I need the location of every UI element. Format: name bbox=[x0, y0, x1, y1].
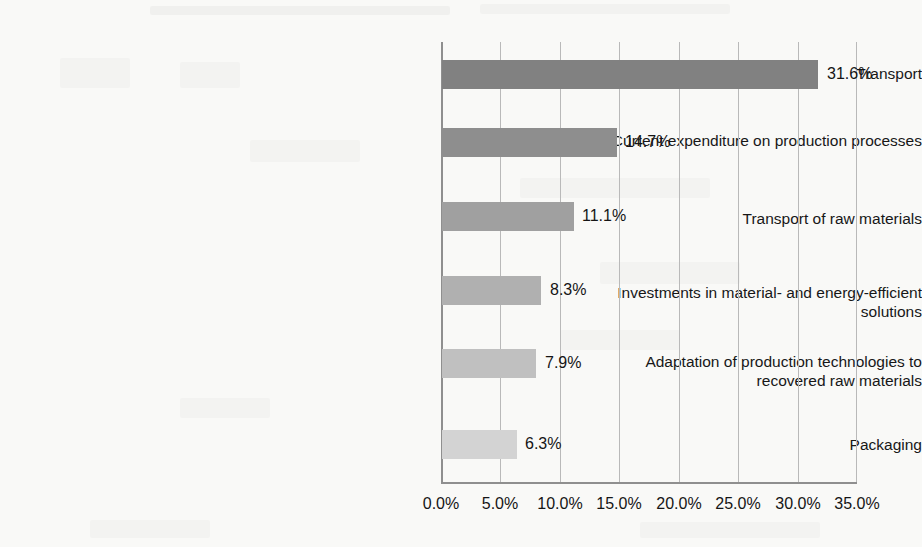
scan-artifact bbox=[480, 4, 730, 14]
value-label-transport-raw-materials: 11.1% bbox=[582, 207, 626, 225]
scan-artifact bbox=[640, 522, 820, 538]
xtick-label-5: 5.0% bbox=[470, 495, 530, 513]
bar-transport bbox=[442, 60, 818, 89]
scan-artifact bbox=[90, 520, 210, 538]
gridline-25 bbox=[738, 42, 739, 484]
gridline-20 bbox=[679, 42, 680, 484]
x-axis-line bbox=[441, 482, 857, 484]
gridline-5 bbox=[500, 42, 501, 484]
scan-artifact bbox=[250, 140, 360, 162]
scan-artifact bbox=[180, 398, 270, 418]
bar-adaptation-technologies bbox=[442, 349, 536, 378]
scan-artifact bbox=[180, 62, 240, 88]
gridline-10 bbox=[560, 42, 561, 484]
value-label-transport: 31.6% bbox=[827, 65, 872, 83]
gridline-35 bbox=[856, 42, 857, 484]
bar-transport-raw-materials bbox=[442, 202, 574, 231]
chart-page: Transport Current expenditure on product… bbox=[0, 0, 922, 547]
gridline-15 bbox=[619, 42, 620, 484]
scan-artifact bbox=[60, 58, 130, 88]
xtick-label-0: 0.0% bbox=[411, 495, 471, 513]
value-label-packaging: 6.3% bbox=[525, 435, 561, 453]
bar-current-expenditure bbox=[442, 128, 617, 157]
bar-packaging bbox=[442, 430, 517, 459]
xtick-label-35: 35.0% bbox=[822, 495, 892, 513]
value-label-current-expenditure: 14.7% bbox=[625, 133, 670, 151]
value-label-investments-efficient-solutions: 8.3% bbox=[550, 281, 586, 299]
plot-area bbox=[441, 42, 857, 484]
gridline-30 bbox=[798, 42, 799, 484]
scan-artifact bbox=[150, 6, 450, 15]
bar-investments-efficient-solutions bbox=[442, 276, 541, 305]
y-axis-line bbox=[441, 42, 443, 484]
value-label-adaptation-technologies: 7.9% bbox=[545, 354, 581, 372]
